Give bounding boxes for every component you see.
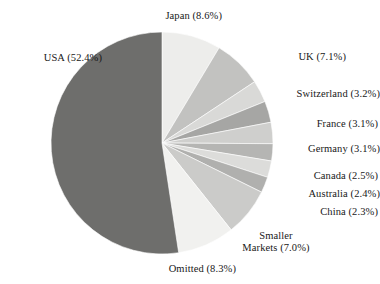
slice-label-switzerland: Switzerland (3.2%) (272, 88, 380, 100)
slice-label-japan: Japan (8.6%) (112, 10, 222, 22)
slice-label-uk: UK (7.1%) (256, 51, 346, 63)
slice-label-germany: Germany (3.1%) (276, 143, 380, 155)
pie-slice-usa (51, 32, 179, 254)
slice-label-australia: Australia (2.4%) (276, 188, 380, 200)
slice-label-usa: USA (52.4%) (2, 52, 102, 64)
slice-label-canada: Canada (2.5%) (282, 170, 378, 182)
pie-chart: USA (52.4%) Japan (8.6%) UK (7.1%) Switz… (0, 0, 380, 284)
slice-label-france: France (3.1%) (278, 118, 378, 130)
slice-label-china: China (2.3%) (280, 206, 378, 218)
slice-label-omitted: Omitted (8.3%) (126, 263, 236, 275)
slice-label-smaller-markets: Smaller Markets (7.0%) (222, 230, 330, 254)
